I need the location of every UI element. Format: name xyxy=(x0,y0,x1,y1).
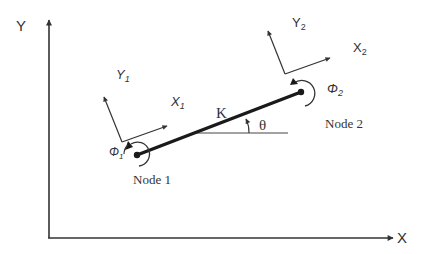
local-y2-label: Y2 xyxy=(292,15,306,32)
rotation-phi2-label: Φ2 xyxy=(327,81,343,98)
local-frame-node-2: Y2 X2 xyxy=(268,15,367,74)
global-y-label: Y xyxy=(16,17,26,34)
local-y2-axis xyxy=(268,31,285,74)
rotation-phi1-arrowhead-icon xyxy=(125,141,133,150)
stiffness-label: K xyxy=(216,105,227,121)
theta-arc-icon xyxy=(246,119,249,133)
local-x2-axis xyxy=(285,58,330,74)
node-2-label: Node 2 xyxy=(325,116,363,131)
node-1: Φ1 Node 1 xyxy=(109,141,171,187)
node-2: Φ2 Node 2 xyxy=(290,78,363,131)
theta-label: θ xyxy=(259,117,266,133)
node-1-dot xyxy=(134,152,140,158)
local-y1-axis xyxy=(104,97,122,142)
rotation-phi1-label: Φ1 xyxy=(109,145,124,161)
beam-element xyxy=(137,92,301,155)
global-axes: Y X xyxy=(16,17,407,246)
local-x1-axis xyxy=(122,126,167,142)
local-frame-node-1: Y1 X1 xyxy=(104,67,185,142)
local-x2-label: X2 xyxy=(353,40,367,57)
global-x-label: X xyxy=(397,229,407,246)
node-2-dot xyxy=(298,89,304,95)
beam-element-diagram: Y X Y1 X1 Y2 X2 K θ Φ1 xyxy=(0,0,423,254)
local-y1-label: Y1 xyxy=(116,67,130,84)
local-x1-label: X1 xyxy=(170,94,185,111)
node-1-label: Node 1 xyxy=(133,172,171,187)
